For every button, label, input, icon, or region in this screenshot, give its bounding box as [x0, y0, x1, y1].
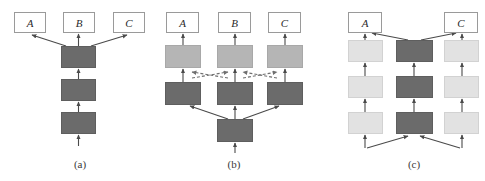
layer-block-mid: [165, 45, 201, 68]
cross-attention-arrow: [192, 72, 228, 78]
layer-block-light: [348, 40, 383, 62]
layer-block-dark: [61, 46, 96, 68]
flow-arrow: [32, 35, 66, 46]
panel-caption-c: (c): [394, 158, 434, 170]
layer-block-light: [444, 76, 479, 98]
layer-block-dark: [396, 76, 433, 98]
layer-block-light: [348, 76, 383, 98]
output-box-b: B: [218, 12, 251, 33]
output-box-c: C: [444, 12, 478, 33]
cross-attention-arrow: [243, 72, 277, 78]
output-box-a: A: [348, 12, 382, 33]
layer-block-light: [444, 40, 479, 62]
flow-arrow: [421, 33, 456, 40]
flow-arrow: [190, 106, 228, 119]
output-box-b: B: [63, 12, 95, 33]
flow-arrow: [420, 136, 460, 148]
layer-block-dark: [217, 119, 253, 142]
layer-block-dark: [61, 79, 96, 101]
output-box-c: C: [113, 12, 145, 33]
layer-block-mid: [217, 45, 253, 68]
dashed-arrow-group: [192, 72, 277, 78]
layer-block-dark: [61, 112, 96, 134]
output-box-a: A: [166, 12, 199, 33]
layer-block-dark: [396, 40, 433, 62]
output-box-c: C: [268, 12, 301, 33]
flow-arrow: [243, 106, 279, 119]
flow-arrow: [367, 136, 408, 148]
layer-block-light: [348, 112, 383, 134]
layer-block-dark: [267, 82, 303, 105]
layer-block-mid: [267, 45, 303, 68]
panel-caption-b: (b): [214, 158, 254, 170]
flow-arrow: [372, 33, 408, 40]
layer-block-dark: [217, 82, 253, 105]
figure-canvas: ABC(a)ABC(b)AC(c): [0, 0, 485, 181]
panel-caption-a: (a): [60, 158, 100, 170]
cross-attention-arrow: [192, 72, 228, 78]
output-box-a: A: [14, 12, 46, 33]
flow-arrow: [91, 35, 127, 46]
layer-block-dark: [396, 112, 433, 134]
layer-block-light: [444, 112, 479, 134]
layer-block-dark: [165, 82, 201, 105]
cross-attention-arrow: [243, 72, 277, 78]
